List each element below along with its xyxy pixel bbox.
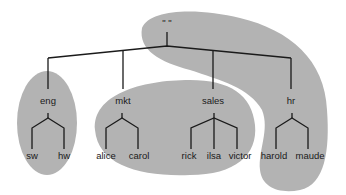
leaf-carol: carol [129,150,150,161]
root-label: " " [162,17,171,28]
leaf-alice: alice [96,150,116,161]
leaf-maude: maude [295,150,324,161]
leaf-rick: rick [182,150,197,161]
leaf-sw: sw [26,150,38,161]
leaf-harold: harold [261,150,287,161]
leaf-ilsa: ilsa [207,150,222,161]
leaf-victor: victor [229,150,252,161]
node-hr: hr [287,95,295,106]
tree-diagram: " " eng mkt sales hr sw hw alice carol r… [0,0,346,195]
leaf-hw: hw [58,150,70,161]
node-mkt: mkt [115,95,131,106]
node-eng: eng [40,95,56,106]
node-sales: sales [202,95,224,106]
